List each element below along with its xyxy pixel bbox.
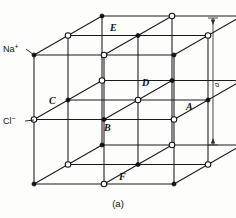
atom-cl-ion <box>135 97 141 103</box>
figure-caption: (a) <box>0 198 236 209</box>
atom-na-ion <box>100 143 104 147</box>
atom-na-ion <box>32 182 36 186</box>
dimension-arrowhead-top <box>211 20 215 26</box>
site-label-d: D <box>141 77 149 88</box>
atom-na-ion <box>136 33 140 37</box>
atom-cl-ion <box>171 117 177 123</box>
atom-na-ion <box>102 117 106 121</box>
site-label-f: F <box>118 171 126 182</box>
atom-na-ion <box>66 98 70 102</box>
nacl-lattice-figure: Na+Cl−EDCABFa (a) <box>0 0 236 218</box>
atom-cl-ion <box>169 13 175 19</box>
atom-na-ion <box>206 98 210 102</box>
atom-cl-ion <box>65 33 71 39</box>
atom-cl-ion <box>99 78 105 84</box>
ion-leader-line-na <box>26 49 34 55</box>
lattice-diagram: Na+Cl−EDCABFa <box>0 0 236 218</box>
atom-na-ion <box>136 162 140 166</box>
atom-cl-ion <box>169 142 175 148</box>
atom-cl-ion <box>205 33 211 39</box>
site-label-c: C <box>49 95 56 106</box>
ion-label-na: Na+ <box>3 43 19 54</box>
site-label-e: E <box>109 22 117 33</box>
site-label-a: A <box>185 101 193 112</box>
dimension-label-a: a <box>211 83 221 87</box>
atom-cl-ion <box>205 162 211 168</box>
atom-na-ion <box>172 53 176 57</box>
atom-na-ion <box>172 182 176 186</box>
site-label-b: B <box>103 122 111 133</box>
atom-na-ion <box>170 78 174 82</box>
ion-label-cl: Cl− <box>3 115 16 126</box>
atom-cl-ion <box>31 117 37 123</box>
atom-cl-ion <box>101 52 107 58</box>
atom-cl-ion <box>65 162 71 168</box>
atom-cl-ion <box>101 181 107 187</box>
atom-na-ion <box>100 14 104 18</box>
dimension-arrowhead-bottom <box>211 138 215 144</box>
